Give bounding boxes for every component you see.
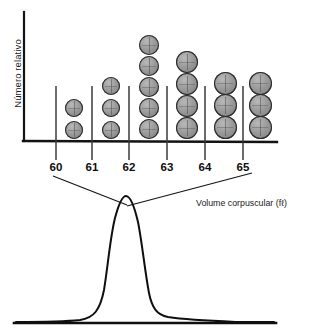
x-tick-label-63: 63 bbox=[154, 161, 180, 173]
cell-marker-61-2 bbox=[102, 99, 120, 117]
leader-line-left bbox=[53, 176, 127, 205]
x-axis-line bbox=[23, 141, 277, 142]
x-tick-label-60: 60 bbox=[43, 161, 69, 173]
cell-marker-61-1 bbox=[102, 121, 120, 139]
x-axis-title: Volume corpuscular (fℓ) bbox=[196, 198, 287, 208]
cell-marker-62-4 bbox=[139, 56, 159, 76]
cell-marker-65-1 bbox=[249, 116, 272, 139]
x-tick-label-64: 64 bbox=[192, 161, 218, 173]
cell-marker-62-5 bbox=[139, 35, 159, 55]
x-tick-label-65: 65 bbox=[230, 161, 256, 173]
cell-marker-63-2 bbox=[176, 95, 198, 117]
cell-marker-60-2 bbox=[65, 99, 83, 117]
cell-marker-63-1 bbox=[176, 117, 198, 139]
cell-marker-62-1 bbox=[139, 119, 159, 139]
distribution-curve bbox=[16, 196, 274, 322]
cell-marker-63-4 bbox=[176, 51, 198, 73]
cell-marker-63-3 bbox=[176, 73, 198, 95]
cell-marker-60-1 bbox=[65, 121, 83, 139]
cell-marker-62-3 bbox=[139, 77, 159, 97]
cell-marker-65-3 bbox=[249, 72, 272, 95]
x-tick-label-61: 61 bbox=[79, 161, 105, 173]
cell-marker-62-2 bbox=[139, 98, 159, 118]
x-tick-label-62: 62 bbox=[116, 161, 142, 173]
figure-container: Número relativo Volume corpuscular (fℓ) … bbox=[0, 0, 321, 333]
y-axis-label: Número relativo bbox=[12, 14, 23, 134]
cell-marker-64-3 bbox=[214, 72, 237, 95]
cell-marker-64-2 bbox=[214, 94, 237, 117]
cell-marker-64-1 bbox=[214, 116, 237, 139]
cell-marker-65-2 bbox=[249, 94, 272, 117]
cell-marker-61-3 bbox=[102, 77, 120, 95]
